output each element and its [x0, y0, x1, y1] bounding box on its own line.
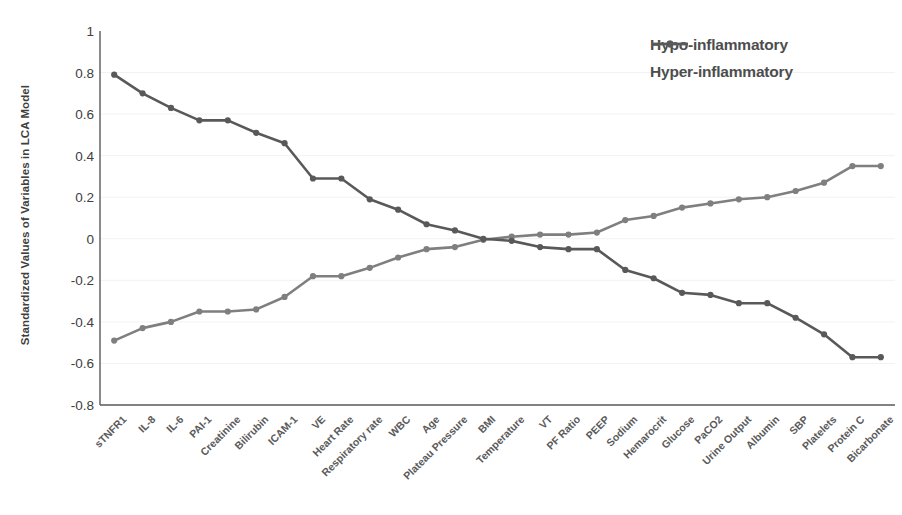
- data-point-hyper: [622, 267, 628, 273]
- data-point-hypo: [395, 254, 401, 260]
- data-point-hyper: [594, 246, 600, 252]
- data-point-hyper: [651, 275, 657, 281]
- data-point-hypo: [565, 232, 571, 238]
- data-point-hyper: [338, 175, 344, 181]
- data-point-hyper: [793, 315, 799, 321]
- data-point-hyper: [196, 117, 202, 123]
- data-point-hyper: [509, 238, 515, 244]
- data-point-hyper: [565, 246, 571, 252]
- data-point-hypo: [622, 217, 628, 223]
- data-point-hyper: [736, 300, 742, 306]
- data-point-hypo: [111, 337, 117, 343]
- data-point-hypo: [764, 194, 770, 200]
- data-point-hypo: [594, 229, 600, 235]
- data-point-hyper: [537, 244, 543, 250]
- data-point-hypo: [423, 246, 429, 252]
- data-point-hypo: [679, 205, 685, 211]
- data-point-hypo: [452, 244, 458, 250]
- data-point-hyper: [225, 117, 231, 123]
- data-point-hypo: [139, 325, 145, 331]
- data-point-hypo: [651, 213, 657, 219]
- data-point-hyper: [452, 227, 458, 233]
- series-line-hyper: [114, 75, 881, 358]
- chart-figure: Standardized Values of Variables in LCA …: [0, 0, 902, 515]
- data-point-hyper: [764, 300, 770, 306]
- data-point-hypo: [537, 232, 543, 238]
- data-point-hypo: [168, 319, 174, 325]
- data-point-hyper: [423, 221, 429, 227]
- data-point-hyper: [849, 354, 855, 360]
- data-point-hypo: [367, 265, 373, 271]
- data-point-hyper: [253, 130, 259, 136]
- data-point-hypo: [225, 308, 231, 314]
- data-point-hypo: [736, 196, 742, 202]
- legend-item-hyper[interactable]: Hyper-inflammatory: [650, 63, 793, 81]
- data-point-hypo: [849, 163, 855, 169]
- legend-marker-hyper-icon: [650, 36, 690, 52]
- data-point-hyper: [367, 196, 373, 202]
- data-point-hypo: [878, 163, 884, 169]
- data-point-hyper: [480, 236, 486, 242]
- data-point-hypo: [253, 306, 259, 312]
- legend-label-hyper: Hyper-inflammatory: [650, 63, 793, 81]
- chart-legend: Hypo-inflammatory Hyper-inflammatory: [650, 36, 793, 81]
- data-point-hyper: [679, 290, 685, 296]
- data-point-hyper: [878, 354, 884, 360]
- data-point-hyper: [395, 207, 401, 213]
- data-point-hypo: [196, 308, 202, 314]
- data-point-hypo: [281, 294, 287, 300]
- data-point-hyper: [281, 140, 287, 146]
- data-point-hypo: [707, 200, 713, 206]
- data-point-hyper: [310, 175, 316, 181]
- data-point-hypo: [793, 188, 799, 194]
- series-line-hypo: [114, 166, 881, 341]
- data-point-hypo: [338, 273, 344, 279]
- data-point-hyper: [111, 72, 117, 78]
- data-point-hypo: [310, 273, 316, 279]
- data-point-hypo: [821, 180, 827, 186]
- data-point-hyper: [168, 105, 174, 111]
- data-point-hyper: [707, 292, 713, 298]
- data-point-hyper: [821, 331, 827, 337]
- data-point-hyper: [139, 90, 145, 96]
